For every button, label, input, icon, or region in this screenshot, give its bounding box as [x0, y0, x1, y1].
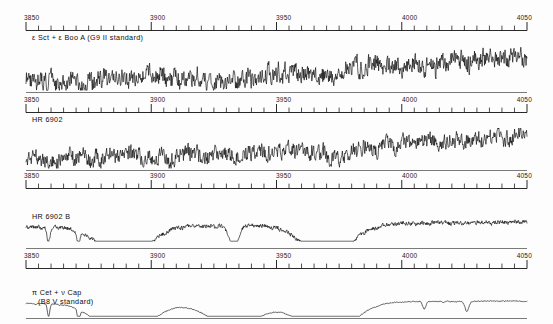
panel4-tick-label-3850: 3850	[24, 252, 39, 259]
panel3-tick-label-4000: 4000	[402, 172, 417, 179]
panel3-spectrum-trace	[0, 188, 553, 243]
panel1-spectrum-trace	[0, 44, 553, 92]
panel2-tick-label-4050: 4050	[517, 96, 532, 103]
panel4-star-subtype: (B8 V standard)	[32, 297, 94, 306]
panel2-star-name: HR 6902	[32, 115, 63, 124]
panel4-tick-label-4050: 4050	[517, 252, 532, 259]
panel4-tick-label-4000: 4000	[402, 252, 417, 259]
panel4-tick-label-3900: 3900	[150, 252, 165, 259]
panel1-tick-label-4000: 4000	[402, 14, 417, 21]
panel1-tick-label-3900: 3900	[150, 14, 165, 21]
panel3-star-label: HR 6902 B	[32, 212, 70, 221]
panel1-tick-label-3850: 3850	[24, 14, 39, 21]
panel2-star-label: HR 6902	[32, 115, 63, 124]
panel2-axis	[0, 104, 553, 113]
panel3-star-name: HR 6902 B	[32, 212, 70, 221]
panel2-spectrum-trace	[0, 126, 553, 170]
panel1-star-label: ε Sct + ε Boo A (G9 II standard)	[32, 33, 143, 42]
panel3-tick-label-3900: 3900	[150, 172, 165, 179]
panel2-tick-label-3850: 3850	[24, 96, 39, 103]
spectra-figure: 3850 3900 3950 4000 4050 ε Sct + ε Boo A…	[0, 0, 553, 324]
panel3-baseline	[26, 248, 527, 249]
panel2-baseline	[26, 170, 527, 171]
panel1-tick-label-3950: 3950	[276, 14, 291, 21]
panel3-tick-label-4050: 4050	[517, 172, 532, 179]
panel1-baseline	[26, 92, 527, 93]
panel2-tick-label-4000: 4000	[402, 96, 417, 103]
panel4-tick-label-3950: 3950	[276, 252, 291, 259]
panel3-tick-label-3950: 3950	[276, 172, 291, 179]
panel2-tick-label-3950: 3950	[276, 96, 291, 103]
panel3-tick-label-3850: 3850	[24, 172, 39, 179]
panel4-baseline	[26, 318, 527, 319]
panel1-axis	[0, 22, 553, 31]
panel4-star-label: π Cet + ν Cap (B8 V standard)	[32, 288, 94, 306]
panel1-star-name: ε Sct + ε Boo A (G9 II standard)	[32, 33, 143, 42]
panel1-tick-label-4050: 4050	[517, 14, 532, 21]
panel4-star-name: π Cet + ν Cap	[32, 288, 82, 297]
panel2-tick-label-3900: 3900	[150, 96, 165, 103]
